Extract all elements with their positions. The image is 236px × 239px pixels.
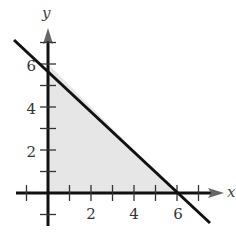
chart-canvas: 2 4 6 2 4 6 x y [0, 0, 236, 239]
y-axis-label: y [41, 4, 51, 22]
y-tick-label-2: 2 [26, 143, 36, 161]
x-axis-label: x [227, 183, 236, 201]
y-tick-label-4: 4 [26, 100, 36, 118]
x-tick-label-6: 6 [173, 205, 183, 223]
x-tick-label-4: 4 [129, 205, 139, 223]
x-tick-label-2: 2 [86, 205, 96, 223]
y-tick-label-6: 6 [26, 57, 36, 75]
